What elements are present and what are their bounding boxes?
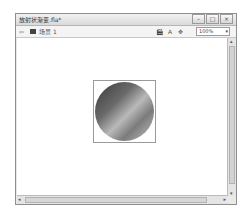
zoom-select[interactable]: 100% ▾	[196, 27, 230, 36]
title-bar[interactable]: 放射状渐变.fla* – □ ×	[16, 14, 236, 26]
minimize-button[interactable]: –	[192, 14, 205, 24]
center-stage-icon[interactable]: ✥	[178, 27, 183, 36]
radial-gradient-circle[interactable]	[95, 82, 154, 141]
back-icon[interactable]: ⇦	[19, 27, 24, 36]
horizontal-scrollbar[interactable]: ◂ ▸	[17, 195, 227, 204]
maximize-button[interactable]: □	[206, 14, 219, 24]
vertical-scroll-thumb[interactable]	[229, 46, 235, 184]
chevron-down-icon[interactable]: ▾	[225, 28, 228, 35]
horizontal-scroll-thumb[interactable]	[25, 197, 207, 203]
scroll-left-icon[interactable]: ◂	[18, 196, 21, 202]
vertical-scrollbar[interactable]: ▴ ▾	[227, 38, 236, 196]
stage-area[interactable]	[17, 38, 227, 196]
close-button[interactable]: ×	[220, 14, 233, 24]
zoom-value: 100%	[199, 28, 213, 34]
scroll-down-icon[interactable]: ▾	[230, 190, 233, 196]
artboard[interactable]	[93, 80, 156, 143]
scroll-right-icon[interactable]: ▸	[223, 196, 226, 202]
edit-symbol-icon[interactable]: A	[168, 27, 172, 36]
edit-scene-icon[interactable]: 🎬	[156, 27, 163, 36]
edit-bar: ⇦ 场景 1 🎬 A ✥ 100% ▾	[16, 26, 236, 38]
scene-icon	[30, 29, 36, 34]
window-title: 放射状渐变.fla*	[19, 15, 61, 24]
scene-label[interactable]: 场景 1	[39, 27, 57, 36]
document-window: 放射状渐变.fla* – □ × ⇦ 场景 1 🎬 A ✥ 100% ▾ ▴ ▾…	[15, 13, 237, 205]
window-controls: – □ ×	[192, 14, 233, 24]
scroll-up-icon[interactable]: ▴	[230, 38, 233, 44]
